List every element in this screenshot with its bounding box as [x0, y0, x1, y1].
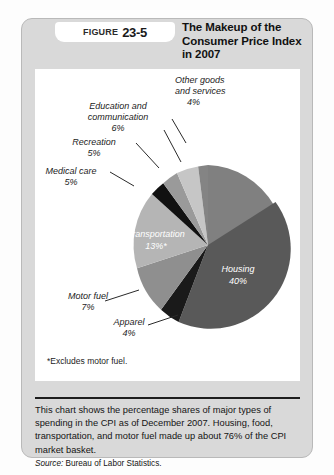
leader-line-education: [164, 130, 181, 162]
figure-source: Source: Bureau of Labor Statistics.: [35, 459, 303, 468]
chart-panel: Education and communication 6% Recreatio…: [35, 69, 300, 381]
source-text: Bureau of Labor Statistics.: [66, 459, 162, 468]
figure-label: Figure: [83, 27, 118, 37]
label-recreation: Recreation 5%: [53, 137, 135, 159]
label-housing: Housing 40%: [203, 264, 273, 287]
caption-divider: [35, 397, 300, 399]
figure-header: Figure 23-5 The Makeup of the Consumer P…: [22, 19, 312, 69]
figure-number-tab: Figure 23-5: [55, 22, 175, 42]
figure-page: Figure 23-5 The Makeup of the Consumer P…: [0, 0, 334, 475]
label-other-goods-and-services: Other goods and services 4%: [175, 75, 261, 108]
chart-footnote: *Excludes motor fuel.: [47, 356, 127, 366]
label-apparel: Apparel 4%: [95, 317, 163, 339]
leader-line-medical: [110, 172, 134, 186]
figure-card: Figure 23-5 The Makeup of the Consumer P…: [21, 18, 313, 458]
label-transportation: Transportation 13%*: [113, 229, 199, 252]
label-food-and-beverages: Food and beverages 16%: [207, 137, 281, 172]
source-word: Source:: [35, 459, 63, 468]
label-motor-fuel: Motor fuel 7%: [51, 291, 125, 313]
label-medical-care: Medical care 5%: [31, 166, 111, 188]
figure-caption: This chart shows the percentage shares o…: [35, 404, 303, 457]
figure-title: The Makeup of the Consumer Price Index i…: [182, 21, 308, 62]
leader-line-recreation: [136, 143, 159, 168]
label-education-and-communication: Education and communication 6%: [63, 101, 173, 134]
leader-line-other-goods: [172, 119, 186, 143]
figure-number: 23-5: [122, 25, 147, 40]
